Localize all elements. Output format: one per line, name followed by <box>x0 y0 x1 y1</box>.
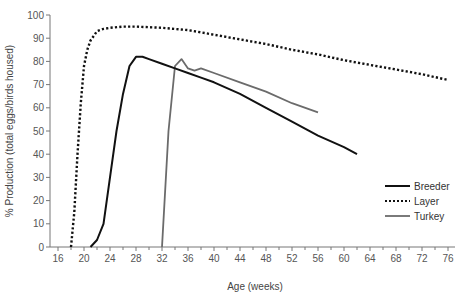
x-tick-label: 76 <box>442 253 454 264</box>
y-tick-label: 0 <box>38 242 44 253</box>
x-tick-label: 60 <box>338 253 350 264</box>
axes: 0102030405060708090100162024283236404448… <box>27 10 455 265</box>
x-tick-label: 16 <box>52 253 64 264</box>
x-tick-label: 32 <box>156 253 168 264</box>
x-tick-label: 68 <box>390 253 402 264</box>
x-axis-title: Age (weeks) <box>227 281 283 292</box>
y-tick-label: 70 <box>33 79 45 90</box>
plot-area <box>71 27 448 247</box>
legend-label-breeder: Breeder <box>414 181 450 192</box>
y-tick-label: 40 <box>33 149 45 160</box>
x-tick-label: 36 <box>182 253 194 264</box>
x-tick-label: 20 <box>78 253 90 264</box>
series-turkey-line <box>162 59 318 247</box>
legend-label-layer: Layer <box>414 196 440 207</box>
x-tick-label: 24 <box>104 253 116 264</box>
x-tick-label: 28 <box>130 253 142 264</box>
y-tick-label: 80 <box>33 56 45 67</box>
y-tick-label: 30 <box>33 172 45 183</box>
y-tick-label: 90 <box>33 33 45 44</box>
y-axis-title: % Production (total eggs/birds housed) <box>4 45 15 217</box>
x-tick-label: 64 <box>364 253 376 264</box>
y-tick-label: 50 <box>33 126 45 137</box>
x-tick-label: 52 <box>286 253 298 264</box>
y-tick-label: 10 <box>33 218 45 229</box>
legend: BreederLayerTurkey <box>385 181 450 222</box>
x-tick-label: 48 <box>260 253 272 264</box>
y-tick-label: 60 <box>33 102 45 113</box>
y-tick-label: 100 <box>27 10 44 21</box>
x-tick-label: 56 <box>312 253 324 264</box>
x-tick-label: 40 <box>208 253 220 264</box>
y-tick-label: 20 <box>33 195 45 206</box>
series-layer-line <box>71 27 448 247</box>
chart: 0102030405060708090100162024283236404448… <box>0 0 468 302</box>
x-tick-label: 44 <box>234 253 246 264</box>
series-breeder-line <box>91 57 358 247</box>
x-tick-label: 72 <box>416 253 428 264</box>
legend-label-turkey: Turkey <box>414 211 444 222</box>
